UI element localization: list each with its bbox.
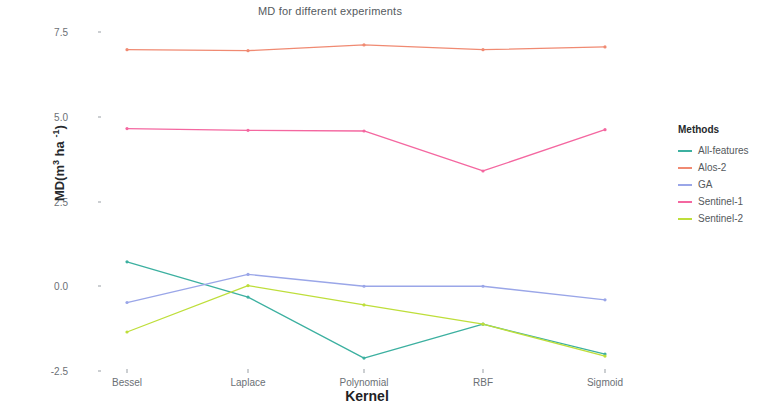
data-point xyxy=(481,323,484,326)
y-axis-title-end: ) xyxy=(52,125,67,129)
x-tick-label-polynomial: Polynomial xyxy=(340,377,389,388)
data-point xyxy=(362,43,365,46)
data-point xyxy=(481,285,484,288)
data-point xyxy=(481,169,484,172)
data-point xyxy=(603,354,606,357)
data-point xyxy=(362,285,365,288)
legend-item-sentinel-1[interactable]: Sentinel-1 xyxy=(678,193,768,210)
data-point xyxy=(603,128,606,131)
y-axis-title-mid: ha xyxy=(52,138,67,160)
data-point xyxy=(481,48,484,51)
x-tick-mark xyxy=(483,369,484,373)
y-tick-label: -2.5 xyxy=(51,366,68,377)
legend-label: Alos-2 xyxy=(698,162,726,173)
x-tick-label-bessel: Bessel xyxy=(112,377,142,388)
x-tick-mark xyxy=(248,369,249,373)
legend-swatch-icon xyxy=(678,218,692,220)
y-axis-title-main: MD(m xyxy=(52,165,67,201)
data-point xyxy=(125,260,128,263)
y-axis-title-exponent-neg1: -1 xyxy=(51,130,61,138)
legend-swatch-icon xyxy=(678,167,692,169)
x-tick-label-sigmoid: Sigmoid xyxy=(587,377,623,388)
data-point xyxy=(125,330,128,333)
data-point xyxy=(125,127,128,130)
series-all-features xyxy=(125,260,606,359)
plot-svg xyxy=(74,20,660,370)
data-point xyxy=(246,49,249,52)
data-point xyxy=(362,357,365,360)
legend-item-alos-2[interactable]: Alos-2 xyxy=(678,159,768,176)
legend-item-all-features[interactable]: All-features xyxy=(678,142,768,159)
x-tick-mark xyxy=(605,369,606,373)
data-point xyxy=(125,48,128,51)
series-line xyxy=(127,274,605,302)
series-sentinel-1 xyxy=(125,127,606,173)
y-axis-title-exponent-3: 3 xyxy=(51,160,61,165)
legend-title: Methods xyxy=(678,124,768,135)
y-tick-label: 7.5 xyxy=(54,27,68,38)
series-line xyxy=(127,45,605,51)
data-point xyxy=(246,129,249,132)
data-point xyxy=(362,303,365,306)
legend-swatch-icon xyxy=(678,150,692,152)
data-point xyxy=(246,284,249,287)
data-point xyxy=(246,295,249,298)
legend-label: All-features xyxy=(698,145,749,156)
series-line xyxy=(127,262,605,358)
chart-container: MD for different experiments 7.55.02.50.… xyxy=(0,0,770,405)
data-point xyxy=(603,298,606,301)
series-line xyxy=(127,286,605,357)
x-tick-label-rbf: RBF xyxy=(473,377,493,388)
legend-swatch-icon xyxy=(678,184,692,186)
data-point xyxy=(125,301,128,304)
y-tick-label: 0.0 xyxy=(54,281,68,292)
legend-items: All-featuresAlos-2GASentinel-1Sentinel-2 xyxy=(678,142,768,227)
legend-item-sentinel-2[interactable]: Sentinel-2 xyxy=(678,210,768,227)
legend-label: GA xyxy=(698,179,712,190)
series-line xyxy=(127,129,605,171)
data-point xyxy=(246,273,249,276)
x-tick-mark xyxy=(127,369,128,373)
data-point xyxy=(362,129,365,132)
y-axis-title: MD(m3 ha -1) xyxy=(51,98,67,228)
legend-item-ga[interactable]: GA xyxy=(678,176,768,193)
legend: Methods All-featuresAlos-2GASentinel-1Se… xyxy=(678,124,768,227)
legend-label: Sentinel-1 xyxy=(698,196,743,207)
legend-label: Sentinel-2 xyxy=(698,213,743,224)
legend-swatch-icon xyxy=(678,201,692,203)
series-alos-2 xyxy=(125,43,606,52)
data-point xyxy=(603,45,606,48)
x-tick-mark xyxy=(364,369,365,373)
series-sentinel-2 xyxy=(125,284,606,358)
x-tick-label-laplace: Laplace xyxy=(230,377,265,388)
series-ga xyxy=(125,273,606,304)
x-axis-title: Kernel xyxy=(74,388,660,404)
plot-area xyxy=(74,20,660,370)
chart-title: MD for different experiments xyxy=(0,5,660,17)
y-tick-mark xyxy=(98,371,101,372)
